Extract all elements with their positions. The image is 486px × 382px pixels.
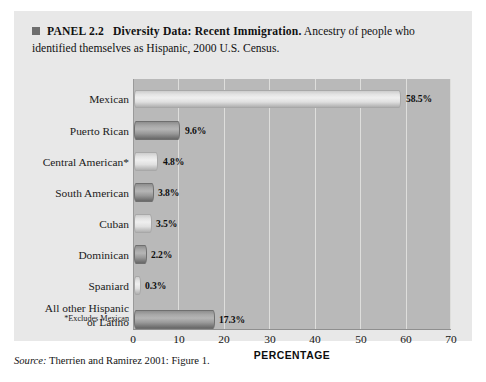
- panel-container: PANEL 2.2Diversity Data: Recent Immigrat…: [14, 11, 472, 341]
- bar-value-puerto-rican: 9.6%: [185, 125, 206, 136]
- source-prefix: Source:: [14, 355, 47, 366]
- category-label-puerto-rican: Puerto Rican: [0, 125, 129, 138]
- bar-central-american: [134, 152, 158, 171]
- source-note: Source: Therrien and Ramirez 2001: Figur…: [14, 355, 210, 366]
- bar-row: Central American* 4.8%: [14, 149, 472, 180]
- x-tick-40: 40: [295, 333, 335, 345]
- bar-row: South American 3.8%: [14, 180, 472, 211]
- bar-cuban: [134, 214, 152, 233]
- x-tick-10: 10: [159, 333, 199, 345]
- bar-row: Cuban 3.5%: [14, 211, 472, 242]
- bar-puerto-rican: [134, 121, 180, 140]
- bar-all-other-hispanic: [134, 310, 215, 329]
- bar-dominican: [134, 245, 147, 264]
- bar-south-american: [134, 183, 154, 202]
- x-tick-0: 0: [113, 333, 153, 345]
- bar-value-dominican: 2.2%: [151, 249, 172, 260]
- x-tick-50: 50: [341, 333, 381, 345]
- category-label-line1: All other Hispanic: [45, 302, 129, 314]
- square-bullet-icon: [32, 27, 40, 35]
- category-label-spaniard: Spaniard: [0, 280, 129, 293]
- bar-spaniard: [134, 276, 141, 295]
- bar-row: Puerto Rican 9.6%: [14, 118, 472, 149]
- category-label-central-american: Central American*: [0, 156, 129, 169]
- category-label-mexican: Mexican: [0, 93, 129, 106]
- x-tick-70: 70: [431, 333, 471, 345]
- bar-mexican: [134, 90, 401, 108]
- bar-value-all-other-hispanic: 17.3%: [219, 314, 245, 325]
- x-tick-60: 60: [386, 333, 426, 345]
- category-label-dominican: Dominican: [0, 249, 129, 262]
- bar-row: Dominican 2.2%: [14, 242, 472, 273]
- bar-value-south-american: 3.8%: [158, 187, 179, 198]
- bar-value-central-american: 4.8%: [163, 156, 184, 167]
- source-text: Therrien and Ramirez 2001: Figure 1.: [49, 355, 210, 366]
- x-tick-20: 20: [204, 333, 244, 345]
- panel-number: PANEL 2.2: [47, 25, 104, 38]
- category-label-cuban: Cuban: [0, 218, 129, 231]
- bar-row: Mexican 58.5%: [14, 87, 472, 118]
- bar-value-cuban: 3.5%: [156, 218, 177, 229]
- x-tick-30: 30: [250, 333, 290, 345]
- bar-value-mexican: 58.5%: [406, 93, 432, 104]
- panel-title: Diversity Data: Recent Immigration.: [113, 25, 302, 38]
- category-label-south-american: South American: [0, 187, 129, 200]
- panel-header: PANEL 2.2Diversity Data: Recent Immigrat…: [32, 24, 456, 57]
- bar-value-spaniard: 0.3%: [145, 280, 166, 291]
- bar-row: Spaniard 0.3%: [14, 273, 472, 304]
- bar-chart: Mexican 58.5% Puerto Rican 9.6% Central …: [14, 74, 472, 341]
- chart-footnote: *Excludes Mexican: [0, 314, 129, 323]
